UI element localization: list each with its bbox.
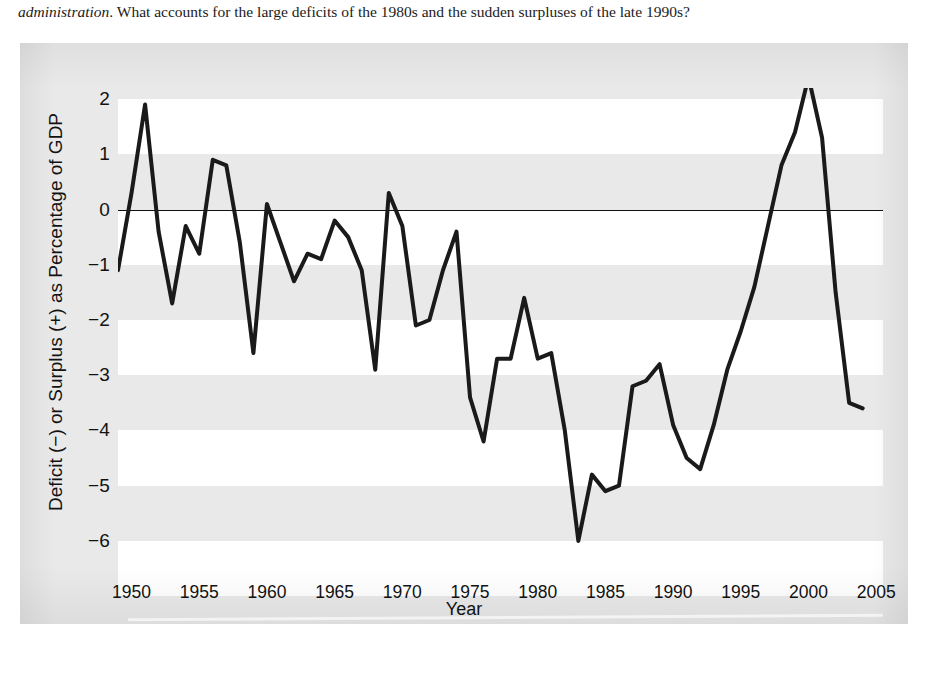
y-axis-tick-label: −6 — [64, 530, 110, 552]
y-axis-tick-label: 0 — [64, 199, 110, 221]
figure-panel: 210−1−2−3−4−5−6 Deficit (−) or Surplus (… — [20, 43, 908, 624]
plot-area — [118, 88, 883, 563]
y-axis-tick-label: −1 — [64, 254, 110, 276]
deficit-surplus-line-series — [118, 88, 883, 563]
x-axis-tick-mark — [871, 570, 881, 578]
x-axis-tick-mark — [736, 570, 746, 578]
x-axis-tick-mark — [465, 570, 475, 578]
y-axis-tick-label: 1 — [64, 143, 110, 165]
x-axis-tick-mark — [397, 570, 407, 578]
x-axis-tick-mark — [804, 570, 814, 578]
y-axis-tick-label: −4 — [64, 419, 110, 441]
x-axis-tick-mark — [600, 570, 610, 578]
x-axis-tick-mark — [668, 570, 678, 578]
body-paragraph-rest: . What accounts for the large deficits o… — [109, 3, 690, 20]
x-axis-tick-mark — [127, 570, 137, 578]
x-axis-tick-mark — [194, 570, 204, 578]
x-axis-tick-mark — [330, 570, 340, 578]
y-axis-title: Deficit (−) or Surplus (+) as Percentage… — [45, 77, 67, 547]
y-axis-tick-label: −3 — [64, 364, 110, 386]
x-axis-tick-mark — [262, 570, 272, 578]
y-axis-tick-label: −5 — [64, 475, 110, 497]
body-paragraph-italic-lead: administration — [18, 3, 109, 20]
y-axis-tick-label: 2 — [64, 88, 110, 110]
body-paragraph: administration. What accounts for the la… — [18, 2, 908, 22]
x-axis-tick-mark — [533, 570, 543, 578]
y-axis-tick-label: −2 — [64, 309, 110, 331]
